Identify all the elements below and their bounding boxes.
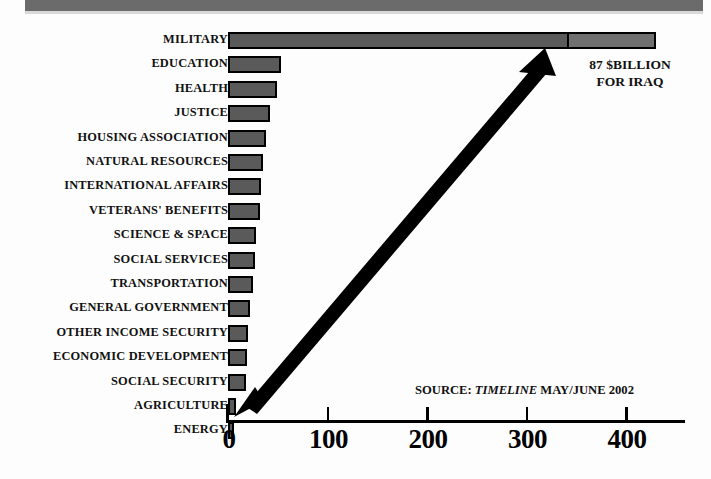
x-axis-line xyxy=(226,420,685,423)
bar-category-label: GENERAL GOVERNMENT xyxy=(69,299,228,316)
bar-category-label: SOCIAL SECURITY xyxy=(111,373,228,390)
bar-category-label: HEALTH xyxy=(175,80,228,97)
bar-category-label: AGRICULTURE xyxy=(134,397,228,414)
source-prefix: SOURCE: xyxy=(415,383,472,397)
bar xyxy=(228,130,266,147)
bar-row: ENERGY xyxy=(0,421,711,445)
iraq-supplement-annotation: 87 $BILLION FOR IRAQ xyxy=(560,56,700,90)
bar-category-label: ENERGY xyxy=(174,421,228,438)
bar xyxy=(228,81,277,98)
x-axis-tick xyxy=(426,407,429,421)
bar xyxy=(228,325,248,342)
bar-row: AGRICULTURE xyxy=(0,397,711,421)
chart-page: MILITARYEDUCATIONHEALTHJUSTICEHOUSING AS… xyxy=(0,0,711,479)
bar-row: GENERAL GOVERNMENT xyxy=(0,299,711,323)
bar xyxy=(228,227,256,244)
bar-iraq-supplement-segment xyxy=(567,32,656,49)
bar-category-label: VETERANS' BENEFITS xyxy=(89,202,228,219)
source-publication: TIMELINE xyxy=(475,383,537,397)
bar xyxy=(228,398,236,415)
iraq-annotation-line1: 87 $BILLION xyxy=(560,56,700,73)
bar-category-label: SCIENCE & SPACE xyxy=(114,226,228,243)
bar xyxy=(228,374,246,391)
bar xyxy=(228,32,569,49)
bar-row: INTERNATIONAL AFFAIRS xyxy=(0,177,711,201)
bar-row: HOUSING ASSOCIATION xyxy=(0,129,711,153)
bar-category-label: TRANSPORTATION xyxy=(110,275,228,292)
bar xyxy=(228,276,253,293)
x-axis-tick xyxy=(625,407,628,421)
x-axis-tick-label: 400 xyxy=(608,424,647,455)
bar xyxy=(228,178,261,195)
bar xyxy=(228,154,263,171)
bar-category-label: MILITARY xyxy=(163,31,228,48)
bar xyxy=(228,56,281,73)
bar-row: SOCIAL SERVICES xyxy=(0,251,711,275)
bar xyxy=(228,349,247,366)
bar-category-label: JUSTICE xyxy=(174,104,228,121)
bar xyxy=(228,105,270,122)
bar-row: NATURAL RESOURCES xyxy=(0,153,711,177)
bar-row: TRANSPORTATION xyxy=(0,275,711,299)
bar-category-label: NATURAL RESOURCES xyxy=(86,153,228,170)
bar-row: VETERANS' BENEFITS xyxy=(0,202,711,226)
x-axis-tick-label: 200 xyxy=(409,424,448,455)
bar-row: ECONOMIC DEVELOPMENT xyxy=(0,348,711,372)
bar-category-label: SOCIAL SERVICES xyxy=(114,251,228,268)
bar-category-label: ECONOMIC DEVELOPMENT xyxy=(53,348,228,365)
bar-category-label: INTERNATIONAL AFFAIRS xyxy=(64,177,228,194)
source-note: SOURCE: TIMELINE MAY/JUNE 2002 xyxy=(415,383,634,398)
x-axis-tick-label: 0 xyxy=(223,424,236,455)
bar-row: MILITARY xyxy=(0,31,711,55)
x-axis-tick-label: 300 xyxy=(508,424,547,455)
bar-category-label: OTHER INCOME SECURITY xyxy=(57,324,229,341)
bar-category-label: EDUCATION xyxy=(151,55,228,72)
x-axis-tick xyxy=(526,407,529,421)
x-axis-tick-label: 100 xyxy=(309,424,348,455)
bar-category-label: HOUSING ASSOCIATION xyxy=(77,129,228,146)
bar xyxy=(228,300,250,317)
bar-row: JUSTICE xyxy=(0,104,711,128)
source-date: MAY/JUNE 2002 xyxy=(540,383,634,397)
x-axis-tick xyxy=(327,407,330,421)
iraq-annotation-line2: FOR IRAQ xyxy=(560,73,700,90)
bar xyxy=(228,252,255,269)
bar xyxy=(228,203,260,220)
bar-row: SCIENCE & SPACE xyxy=(0,226,711,250)
bar-row: OTHER INCOME SECURITY xyxy=(0,324,711,348)
